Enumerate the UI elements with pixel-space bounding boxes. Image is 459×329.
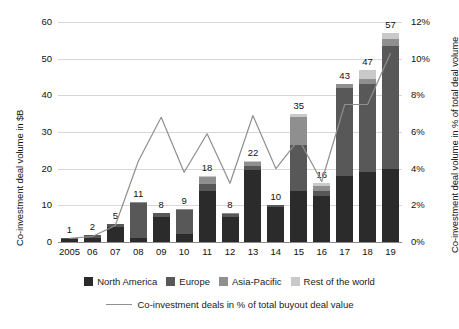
legend-item[interactable]: Asia-Pacific [219,276,282,287]
legend-item-label: North America [97,276,157,287]
legend-item-label: Asia-Pacific [232,276,282,287]
legend-item[interactable]: Europe [166,276,210,287]
legend-series: North AmericaEuropeAsia-PacificRest of t… [0,276,459,287]
legend-swatch-icon [219,277,228,286]
legend-swatch-icon [84,277,93,286]
legend-item[interactable]: North America [84,276,157,287]
legend-line-series: Co-investment deals in % of total buyout… [0,299,459,310]
line-series-path [70,53,391,238]
chart-container: Co-investment deal volume in $B Co-inves… [0,0,459,329]
legend-item-label: Rest of the world [304,276,375,287]
legend-item-label: Europe [179,276,210,287]
x-axis-tick-label: 19 [371,246,411,257]
legend-item[interactable]: Rest of the world [291,276,375,287]
legend-line-label: Co-investment deals in % of total buyout… [138,299,354,310]
legend-swatch-icon [291,277,300,286]
line-legend-dash-icon [106,304,132,305]
legend-swatch-icon [166,277,175,286]
